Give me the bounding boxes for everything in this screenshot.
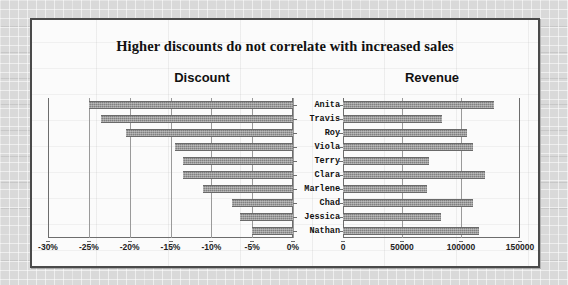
category-label-clara: Clara — [314, 168, 340, 182]
discount-tick-label: 0% — [287, 242, 299, 252]
category-label-viola: Viola — [314, 140, 340, 154]
discount-bar-anita[interactable] — [89, 101, 293, 109]
category-label-roy: Roy — [325, 126, 340, 140]
discount-tick-label: -20% — [120, 242, 140, 252]
revenue-axis-line — [343, 237, 520, 238]
revenue-category-tick — [339, 189, 343, 190]
revenue-bar-clara[interactable] — [343, 171, 485, 179]
revenue-bar-nathan[interactable] — [343, 227, 479, 235]
discount-bar-travis[interactable] — [101, 115, 293, 123]
discount-tick-label: -10% — [201, 242, 221, 252]
category-label-marlene: Marlene — [304, 182, 340, 196]
revenue-category-tick — [339, 203, 343, 204]
discount-bar-nathan[interactable] — [252, 227, 293, 235]
discount-bar-roy[interactable] — [126, 129, 293, 137]
revenue-category-tick — [339, 105, 343, 106]
category-label-chad: Chad — [320, 196, 340, 210]
category-label-nathan: Nathan — [309, 224, 340, 238]
revenue-plot — [343, 98, 520, 238]
revenue-bar-chad[interactable] — [343, 199, 473, 207]
revenue-category-tick — [339, 147, 343, 148]
revenue-tick-label: 100000 — [447, 242, 475, 252]
category-label-travis: Travis — [309, 112, 340, 126]
revenue-bar-viola[interactable] — [343, 143, 473, 151]
revenue-category-tick — [339, 217, 343, 218]
revenue-tick-label: 50000 — [390, 242, 414, 252]
plot-area: AnitaTravisRoyViolaTerryClaraMarleneChad… — [32, 20, 538, 266]
discount-bar-viola[interactable] — [175, 143, 293, 151]
discount-bar-jessica[interactable] — [240, 213, 293, 221]
category-axis-labels: AnitaTravisRoyViolaTerryClaraMarleneChad… — [290, 98, 344, 238]
discount-bar-clara[interactable] — [183, 171, 293, 179]
revenue-category-tick — [339, 175, 343, 176]
discount-plot — [48, 98, 293, 238]
revenue-category-tick — [339, 133, 343, 134]
revenue-tick-label: 0 — [341, 242, 346, 252]
discount-axis-start-line — [48, 98, 49, 238]
revenue-bar-travis[interactable] — [343, 115, 442, 123]
discount-tick-label: -25% — [79, 242, 99, 252]
discount-tick-label: -5% — [245, 242, 260, 252]
revenue-bar-terry[interactable] — [343, 157, 429, 165]
discount-gridline — [89, 98, 90, 238]
revenue-bar-marlene[interactable] — [343, 185, 427, 193]
revenue-gridline — [461, 98, 462, 238]
category-label-jessica: Jessica — [304, 210, 340, 224]
chart-frame[interactable]: Higher discounts do not correlate with i… — [30, 18, 540, 268]
discount-tick-label: -15% — [161, 242, 181, 252]
revenue-category-tick — [339, 119, 343, 120]
discount-tick-label: -30% — [38, 242, 58, 252]
revenue-bar-jessica[interactable] — [343, 213, 441, 221]
revenue-category-tick — [339, 161, 343, 162]
category-label-anita: Anita — [314, 98, 340, 112]
category-label-terry: Terry — [314, 154, 340, 168]
revenue-bar-anita[interactable] — [343, 101, 494, 109]
discount-bar-terry[interactable] — [183, 157, 293, 165]
revenue-bar-roy[interactable] — [343, 129, 467, 137]
revenue-tick-label: 150000 — [506, 242, 534, 252]
discount-bar-marlene[interactable] — [203, 185, 293, 193]
discount-bar-chad[interactable] — [232, 199, 293, 207]
revenue-category-tick — [339, 231, 343, 232]
revenue-axis-end-line — [519, 98, 520, 238]
